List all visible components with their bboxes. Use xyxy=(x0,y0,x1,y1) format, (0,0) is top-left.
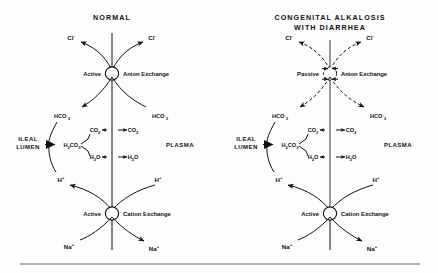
cation-exchange-name-label: Cation Exchange xyxy=(123,211,172,217)
anion-exchange-mode-label: Active xyxy=(83,71,101,77)
label-ileal-lumen-line2-right: LUMEN xyxy=(234,144,258,150)
anion-exchange-mode-label-right: Passive xyxy=(297,71,320,77)
cation-exchange-mode-label-right: Active xyxy=(301,211,319,217)
cation-exchange-carrier xyxy=(105,207,118,220)
panel-title-alkalosis-line2: WITH DIARRHEA xyxy=(294,23,366,32)
diagram-svg: NORMAL Cl- Cl- Active Anion Exchange HCO… xyxy=(0,0,438,273)
cation-exchange-mode-label: Active xyxy=(83,211,101,217)
panel-title-alkalosis-line1: CONGENITAL ALKALOSIS xyxy=(274,13,385,22)
cation-exchange-carrier-right xyxy=(323,207,336,220)
label-ileal-lumen-line1: ILEAL xyxy=(18,136,38,142)
anion-exchange-name-label-right: Anion Exchange xyxy=(341,71,388,77)
label-ileal-lumen-line1-right: ILEAL xyxy=(236,136,256,142)
panel-title-normal: NORMAL xyxy=(93,13,131,22)
label-ileal-lumen-line2: LUMEN xyxy=(16,144,40,150)
anion-exchange-carrier xyxy=(105,67,118,80)
label-plasma: PLASMA xyxy=(166,142,194,148)
label-plasma-right: PLASMA xyxy=(384,142,412,148)
figure-canvas: NORMAL Cl- Cl- Active Anion Exchange HCO… xyxy=(0,0,438,273)
anion-exchange-name-label: Anion Exchange xyxy=(123,71,170,77)
cation-exchange-name-label-right: Cation Exchange xyxy=(341,211,390,217)
